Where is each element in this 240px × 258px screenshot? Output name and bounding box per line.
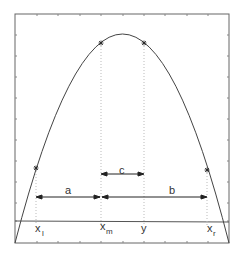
- star-xm-icon: [99, 41, 104, 46]
- arrow-b: [102, 195, 207, 199]
- label-xl-sub: l: [42, 229, 44, 238]
- dotted-guides: [36, 43, 207, 225]
- star-xl-icon: [34, 166, 39, 171]
- baseline: [15, 221, 229, 222]
- label-b: b: [169, 184, 175, 196]
- label-c: c: [119, 164, 125, 176]
- label-xm-sub: m: [106, 227, 113, 236]
- label-y: y: [141, 222, 147, 234]
- parabola-diagram: c a b x l x m y x r: [0, 0, 240, 258]
- label-a: a: [65, 184, 72, 196]
- axis-ticks: [15, 14, 229, 243]
- plot-frame: [15, 14, 229, 243]
- parabola-curve: [15, 34, 229, 243]
- label-xl: x: [35, 222, 41, 234]
- star-y-icon: [142, 41, 147, 46]
- label-xr-sub: r: [213, 229, 216, 238]
- star-markers: [34, 41, 210, 173]
- star-xr-icon: [205, 168, 210, 173]
